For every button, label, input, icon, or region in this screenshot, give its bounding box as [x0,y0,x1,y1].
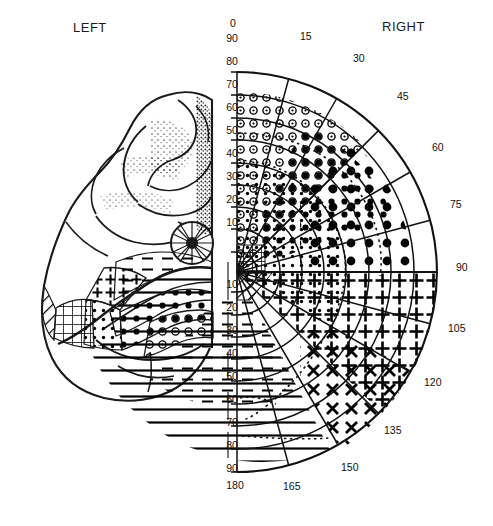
eccentricity-label-up-10: 10 [226,216,238,228]
eccentricity-label-dn-70: 70 [226,416,238,428]
meridian-label-150: 150 [341,461,359,473]
meridian-label-15: 15 [300,30,312,42]
eccentricity-label-dn-20: 20 [226,301,238,313]
figure-canvas: 0 90 80 70 60 50 40 30 20 10 10 20 30 40… [0,0,493,526]
radial-end-label: 180 [226,479,244,491]
eccentricity-label-up-30: 30 [226,170,238,182]
eccentricity-label-dn-80: 80 [226,439,238,451]
meridian-label-135: 135 [384,424,402,436]
meridian-label-165: 165 [283,480,301,492]
eccentricity-label-up-70: 70 [226,78,238,90]
meridian-label-30: 30 [353,52,365,64]
eccentricity-label-dn-90: 90 [226,462,238,474]
eccentricity-label-dn-10: 10 [226,278,238,290]
meridian-label-90: 90 [456,261,468,273]
radial-origin-label: 0 [230,17,236,29]
eccentricity-label-dn-40: 40 [226,347,238,359]
meridian-label-60: 60 [432,141,444,153]
meridian-label-120: 120 [424,376,442,388]
eccentricity-label-up-20: 20 [226,193,238,205]
eccentricity-label-dn-60: 60 [226,393,238,405]
meridian-label-75: 75 [450,198,462,210]
meridian-label-45: 45 [397,90,409,102]
figure-root: LEFT RIGHT [0,0,493,526]
eccentricity-label-dn-30: 30 [226,324,238,336]
eccentricity-label-up-80: 80 [226,55,238,67]
eccentricity-label-dn-50: 50 [226,370,238,382]
meridian-label-105: 105 [448,322,466,334]
eccentricity-label-up-90: 90 [226,32,238,44]
eccentricity-label-up-40: 40 [226,147,238,159]
eccentricity-label-up-50: 50 [226,124,238,136]
eccentricity-label-up-60: 60 [226,101,238,113]
